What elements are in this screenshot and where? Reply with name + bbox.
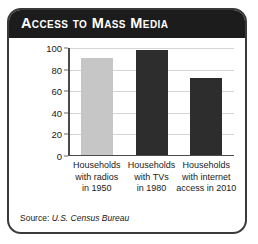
- y-tick-mark: [64, 112, 68, 113]
- y-tick-mark: [64, 134, 68, 135]
- category-label-line: Households: [174, 160, 238, 172]
- y-tick-mark: [64, 69, 68, 70]
- page-title: Access to Mass Media: [7, 15, 168, 31]
- plot-area: [70, 48, 234, 156]
- bar: [190, 78, 222, 155]
- x-axis-category-labels: Householdswith radiosin 1950Householdswi…: [70, 160, 234, 204]
- y-axis-tick-labels: 020406080100: [32, 48, 62, 156]
- bar: [136, 50, 168, 155]
- chart-plot-frame: Households (%) 020406080100 Householdswi…: [18, 42, 238, 218]
- category-label-line: with internet: [174, 172, 238, 184]
- y-tick-label: 60: [32, 86, 62, 97]
- x-axis-line: [70, 155, 234, 157]
- y-tick-label: 80: [32, 64, 62, 75]
- source-name: U.S. Census Bureau: [52, 213, 129, 223]
- source-prefix: Source:: [20, 213, 49, 223]
- chart-card: Access to Mass Media Households (%) 0204…: [7, 8, 247, 234]
- y-tick-label: 20: [32, 129, 62, 140]
- category-label-line: access in 2010: [174, 183, 238, 195]
- y-tick-mark: [64, 156, 68, 157]
- bar: [81, 58, 113, 155]
- category-label: Householdswith internetaccess in 2010: [174, 160, 238, 195]
- y-tick-label: 40: [32, 107, 62, 118]
- bar-series: [70, 47, 234, 155]
- y-tick-label: 0: [32, 151, 62, 162]
- source-note: Source: U.S. Census Bureau: [20, 213, 129, 223]
- chart-title-bar: Access to Mass Media: [7, 8, 247, 38]
- y-tick-mark: [64, 48, 68, 49]
- y-tick-mark: [64, 91, 68, 92]
- y-tick-label: 100: [32, 43, 62, 54]
